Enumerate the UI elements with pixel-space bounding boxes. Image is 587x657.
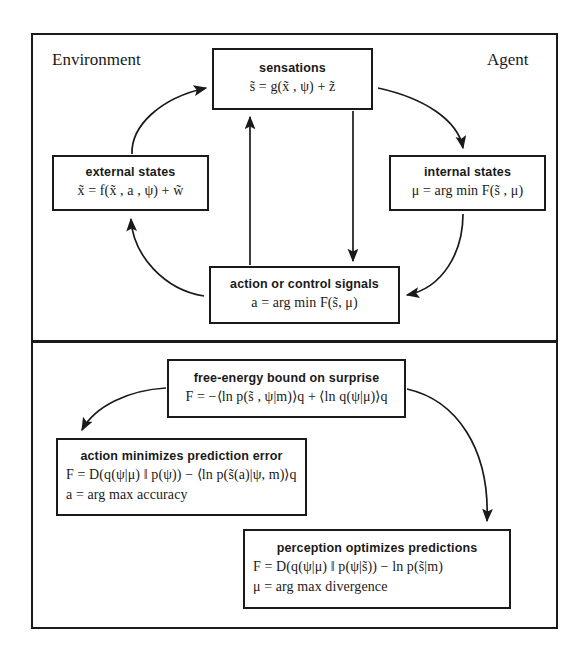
node-sensations-equation: s̃ = g(x̃ , ψ) + z̃ (250, 77, 336, 97)
node-perception-title: perception optimizes predictions (277, 540, 478, 557)
node-free-energy-bound[interactable]: free-energy bound on surprise F = −⟨ln p… (167, 359, 406, 418)
node-action-title: action or control signals (230, 276, 379, 293)
node-action-minimizes-title: action minimizes prediction error (80, 448, 282, 465)
node-internal-states-title: internal states (424, 164, 511, 181)
node-internal-states-equation: μ = arg min F(s̃ , μ) (412, 181, 523, 201)
node-action-equation: a = arg min F(s̃, μ) (251, 293, 357, 313)
node-free-energy-equation: F = −⟨ln p(s̃ , ψ|m)⟩q + ⟨ln q(ψ|μ)⟩q (186, 387, 388, 407)
figure-canvas: Environment Agent sensations s̃ = g(x̃ ,… (0, 0, 587, 657)
node-perception-equation-2: μ = arg max divergence (253, 577, 387, 597)
environment-label: Environment (52, 50, 141, 70)
node-action-minimizes-prediction-error[interactable]: action minimizes prediction error F = D(… (56, 438, 307, 516)
node-external-states[interactable]: external states x̃ = f(x̃ , a , ψ) + w̃ (52, 155, 209, 211)
node-external-states-equation: x̃ = f(x̃ , a , ψ) + w̃ (78, 181, 184, 201)
node-external-states-title: external states (86, 164, 176, 181)
node-action-minimizes-equation-1: F = D(q(ψ|μ) ‖ p(ψ)) − ⟨ln p(s̃(a)|ψ, m)… (66, 465, 297, 485)
node-free-energy-title: free-energy bound on surprise (194, 370, 380, 387)
node-perception-optimizes-predictions[interactable]: perception optimizes predictions F = D(q… (243, 529, 511, 609)
node-sensations-title: sensations (259, 60, 326, 77)
node-internal-states[interactable]: internal states μ = arg min F(s̃ , μ) (389, 155, 546, 211)
node-action-control-signals[interactable]: action or control signals a = arg min F(… (209, 266, 400, 324)
node-perception-equation-1: F = D(q(ψ|μ) ‖ p(ψ|s̃)) − ln p(s̃|m) (253, 557, 443, 577)
node-action-minimizes-equation-2: a = arg max accuracy (66, 485, 188, 505)
agent-label: Agent (487, 50, 529, 70)
node-sensations[interactable]: sensations s̃ = g(x̃ , ψ) + z̃ (212, 48, 373, 110)
